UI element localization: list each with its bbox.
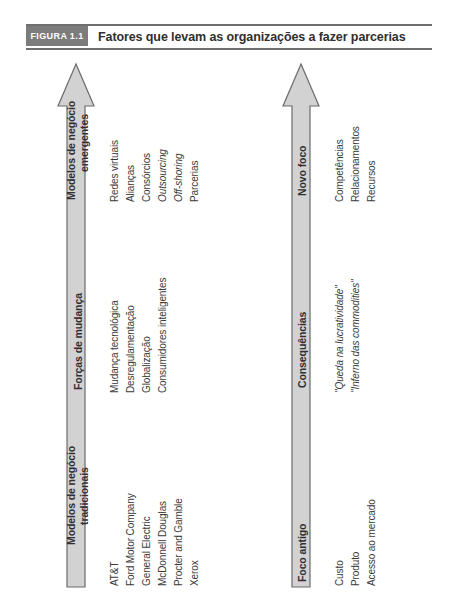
list-item: Outsourcing	[158, 149, 168, 202]
list-item: Consórcios	[142, 153, 152, 202]
figure-header: FIGURA 1.1 Fatores que levam as organiza…	[26, 24, 432, 50]
list-item: Produto	[351, 552, 361, 586]
header-rule-bottom	[26, 48, 432, 50]
list-item: Globalização	[142, 336, 152, 393]
list-item: Consumidores inteligentes	[158, 278, 168, 393]
list-item: Parcerias	[190, 161, 200, 202]
list-item: AT&T	[110, 562, 120, 586]
left-band-label-tradicionais-line2: tradicionais	[79, 467, 90, 525]
list-item: Desregulamentação	[126, 305, 136, 393]
list-item: "Inferno das commodities"	[351, 279, 361, 393]
figure-title: Fatores que levam as organizações a faze…	[98, 27, 406, 47]
list-item: Recursos	[367, 161, 377, 202]
list-item: Acesso ao mercado	[367, 499, 377, 586]
list-item: Redes virtuais	[110, 140, 120, 202]
list-item: Relacionamentos	[351, 126, 361, 202]
right-band-label-consequencias: Consequências	[297, 312, 308, 388]
left-band-label-tradicionais-line1: Modelos de negócio	[66, 446, 77, 545]
left-band-label-emergentes-line1: Modelos de negócio	[66, 101, 77, 200]
list-item: Competências	[335, 139, 345, 202]
list-item: Ford Motor Company	[126, 493, 136, 586]
list-item: Alianças	[126, 165, 136, 202]
list-item: Procter and Gamble	[174, 498, 184, 586]
right-band-label-novo-foco: Novo foco	[297, 146, 308, 196]
list-item: McDonnell Douglas	[158, 501, 168, 586]
list-item: Xerox	[190, 560, 200, 586]
list-item: General Electric	[142, 516, 152, 586]
left-band-label-emergentes-line2: emergentes	[79, 114, 90, 172]
left-band-label-forcas: Forças de mudança	[73, 293, 84, 390]
list-item: "Queda na lucratividade"	[335, 285, 345, 393]
right-band-label-foco-antigo: Foco antigo	[297, 524, 308, 582]
list-item: Mudança tecnológica	[110, 300, 120, 393]
list-item: Custo	[335, 560, 345, 586]
list-item: Off-shoring	[174, 154, 184, 202]
figure-number-badge: FIGURA 1.1	[26, 26, 88, 46]
